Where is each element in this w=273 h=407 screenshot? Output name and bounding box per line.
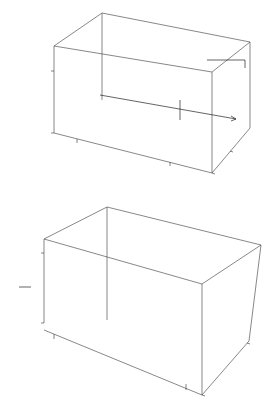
bottom-ticks <box>41 253 250 396</box>
bottom-box-frame <box>44 207 261 395</box>
figure-canvas <box>0 0 273 407</box>
bottom-surface-plot <box>19 207 261 396</box>
top-ticks <box>51 71 233 174</box>
top-box-frame <box>54 13 250 173</box>
top-surface-plot <box>51 13 250 174</box>
top-arrows <box>100 60 245 121</box>
